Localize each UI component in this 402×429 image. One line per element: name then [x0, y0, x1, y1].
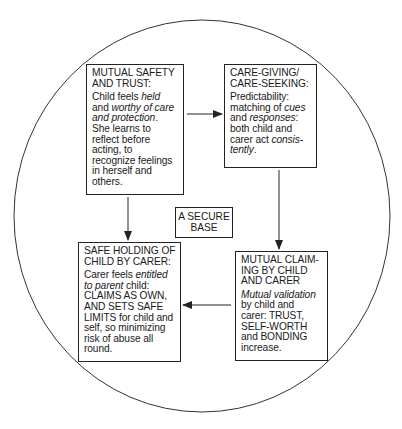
body-text: reflect before — [92, 134, 150, 145]
body-text: carer: TRUST, — [241, 310, 304, 321]
center-label-line-1: A SECURE — [178, 211, 230, 222]
emphasis-text: responses — [249, 112, 295, 123]
body-text: recognize feelings — [92, 155, 172, 166]
emphasis-text: consis- — [271, 134, 303, 145]
node-title-line: SAFE HOLDING OF — [84, 246, 176, 257]
body-text: CLAIMS AS OWN, — [84, 290, 167, 301]
node-mutual-safety-and-trust: MUTUAL SAFETYAND TRUST: Child feels held… — [86, 64, 184, 195]
body-text: . — [155, 112, 158, 123]
node-body: Mutual validationby child andcarer: TRUS… — [241, 290, 323, 354]
node-title-line: CHILD BY CARER: — [84, 257, 176, 268]
node-title: SAFE HOLDING OFCHILD BY CARER: — [84, 246, 176, 267]
body-text: Child feels — [92, 91, 141, 102]
emphasis-text: worthy of care — [111, 102, 174, 113]
node-title-line: CARE-GIVING/ — [230, 68, 312, 79]
node-mutual-claiming: MUTUAL CLAIM-ING BY CHILDAND CARER Mutua… — [235, 251, 328, 361]
body-text: and BONDING — [241, 331, 307, 342]
body-text: and — [92, 102, 111, 113]
body-text: in herself and — [92, 165, 152, 176]
emphasis-text: to parent — [84, 280, 123, 291]
center-label-secure-base: A SECURE BASE — [175, 207, 233, 238]
emphasis-text: Mutual validation — [241, 289, 316, 300]
emphasis-text: held — [141, 91, 160, 102]
node-body: Carer feels entitledto parent child:CLAI… — [84, 270, 176, 355]
node-body-line: increase. — [241, 343, 323, 354]
body-text: LIMITS for child and — [84, 312, 173, 323]
body-text: by child and — [241, 299, 294, 310]
node-title: MUTUAL CLAIM-ING BY CHILDAND CARER — [241, 255, 323, 287]
body-text: matching of — [230, 102, 284, 113]
body-text: SELF-WORTH — [241, 321, 307, 332]
emphasis-text: cues — [284, 102, 305, 113]
node-body: Child feels heldand worthy of careand pr… — [92, 92, 179, 187]
node-body-line: tently. — [230, 145, 312, 156]
node-title-line: AND TRUST: — [92, 79, 179, 90]
body-text: both child and — [230, 123, 292, 134]
body-text: others. — [92, 176, 122, 187]
body-text: risk of abuse all — [84, 333, 153, 344]
body-text: carer act — [230, 134, 271, 145]
node-title-line: MUTUAL SAFETY — [92, 68, 179, 79]
body-text: Carer feels — [84, 269, 135, 280]
body-text: increase. — [241, 342, 281, 353]
node-title-line: CARE-SEEKING: — [230, 79, 312, 90]
node-body-line: round. — [84, 344, 176, 355]
node-title-line: AND CARER — [241, 276, 323, 287]
body-text: and — [230, 112, 249, 123]
node-safe-holding-by-carer: SAFE HOLDING OFCHILD BY CARER: Carer fee… — [78, 242, 181, 362]
node-title: MUTUAL SAFETYAND TRUST: — [92, 68, 179, 89]
body-text: AND SETS SAFE — [84, 301, 163, 312]
node-care-giving-care-seeking: CARE-GIVING/CARE-SEEKING: Predictability… — [224, 64, 317, 168]
emphasis-text: entitled — [135, 269, 167, 280]
body-text: acting, to — [92, 144, 132, 155]
body-text: She learns to — [92, 123, 151, 134]
node-body: Predictability:matching of cuesand respo… — [230, 92, 312, 156]
body-text: Predictability: — [230, 91, 289, 102]
body-text: round. — [84, 343, 112, 354]
node-body-line: others. — [92, 177, 179, 188]
node-title: CARE-GIVING/CARE-SEEKING: — [230, 68, 312, 89]
body-text: . — [254, 144, 257, 155]
emphasis-text: tently — [230, 144, 254, 155]
body-text: child: — [123, 280, 149, 291]
body-text: self, so minimizing — [84, 322, 165, 333]
node-title-line: MUTUAL CLAIM- — [241, 255, 323, 266]
emphasis-text: and protection — [92, 112, 155, 123]
body-text: : — [296, 112, 299, 123]
center-label-line-2: BASE — [178, 222, 230, 233]
